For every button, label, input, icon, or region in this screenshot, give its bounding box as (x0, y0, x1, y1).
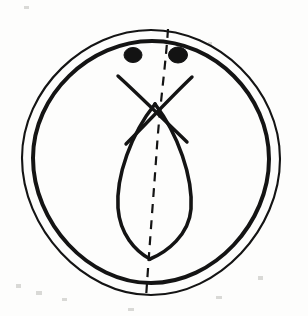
paper-speck (62, 298, 67, 301)
paper-speck (258, 276, 263, 280)
left-centriole-dot-icon (124, 48, 142, 63)
paper-speck (16, 284, 21, 288)
paper-speck (36, 291, 42, 295)
right-centriole-dot-icon (169, 47, 188, 63)
paper-speck (216, 296, 222, 299)
figure-background (0, 0, 308, 316)
figure-canvas (0, 0, 308, 316)
cell-division-figure: Ink line drawing of a rounded cell with … (0, 0, 308, 316)
paper-speck (24, 6, 29, 9)
paper-speck (128, 308, 134, 311)
